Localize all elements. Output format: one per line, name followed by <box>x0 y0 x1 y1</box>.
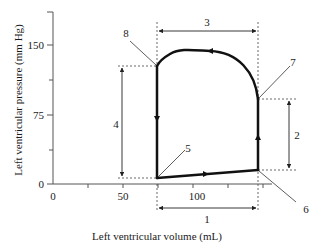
arrow-left-top-icon <box>207 48 213 54</box>
y-tick-150: 150 <box>28 39 45 51</box>
marker-8: 8 <box>123 27 129 39</box>
arrow-right-bottom-icon <box>203 171 209 177</box>
y-axis-label: Left ventricular pressure (mm Hg) <box>12 24 25 176</box>
dimension-arrows <box>122 31 289 208</box>
y-tick-0: 0 <box>39 178 45 190</box>
marker-4: 4 <box>113 118 119 130</box>
x-tick-50: 50 <box>118 190 130 202</box>
arrow-down-left-icon <box>154 116 160 122</box>
marker-5: 5 <box>185 142 191 154</box>
x-axis-label: Left ventricular volume (mL) <box>92 230 222 243</box>
x-tick-0: 0 <box>50 190 56 202</box>
marker-3: 3 <box>204 16 210 28</box>
y-tick-75: 75 <box>33 109 45 121</box>
arrow-up-right-icon <box>255 134 261 140</box>
marker-1: 1 <box>204 213 210 225</box>
marker-6: 6 <box>303 203 309 215</box>
marker-2: 2 <box>294 129 300 141</box>
marker-7: 7 <box>290 56 296 68</box>
x-axis <box>53 184 272 188</box>
pv-loop-diagram: 150 75 0 0 50 100 Left ventricular volum… <box>0 0 314 247</box>
x-tick-100: 100 <box>189 190 206 202</box>
y-axis <box>47 12 53 184</box>
pv-loop <box>157 50 258 178</box>
